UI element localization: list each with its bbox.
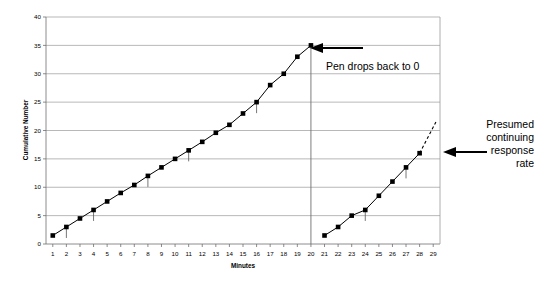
data-point-m8-v12 bbox=[146, 174, 151, 179]
x-tick-label-14: 14 bbox=[226, 250, 233, 257]
data-point-m1-v1.5 bbox=[50, 233, 55, 238]
data-point-m9-v13.5 bbox=[159, 165, 164, 170]
x-axis-title: Minutes bbox=[231, 262, 256, 269]
x-tick-label-11: 11 bbox=[185, 250, 192, 257]
x-tick-label-16: 16 bbox=[253, 250, 260, 257]
x-tick-label-7: 7 bbox=[133, 250, 137, 257]
y-tick-label-25: 25 bbox=[34, 98, 41, 105]
data-point-m12-v18 bbox=[200, 140, 205, 145]
cumulative-record-chart: 0510152025303540 12345678910111213141516… bbox=[0, 0, 549, 287]
x-tick-label-29: 29 bbox=[430, 250, 437, 257]
x-tick-label-17: 17 bbox=[267, 250, 274, 257]
x-tick-label-22: 22 bbox=[335, 250, 342, 257]
data-point-m22-v3 bbox=[336, 225, 341, 230]
data-point-m7-v10.4 bbox=[132, 183, 137, 188]
x-tick-label-18: 18 bbox=[280, 250, 287, 257]
y-tick-label-40: 40 bbox=[34, 13, 41, 20]
y-tick-label-20: 20 bbox=[34, 127, 41, 134]
x-tick-label-25: 25 bbox=[375, 250, 382, 257]
data-point-m17-v28 bbox=[268, 83, 273, 88]
x-tick-label-12: 12 bbox=[199, 250, 206, 257]
pen-drop-label: Pen drops back to 0 bbox=[326, 60, 420, 72]
x-tick-label-8: 8 bbox=[146, 250, 150, 257]
data-point-m24-v6 bbox=[363, 208, 368, 213]
x-tick-label-20: 20 bbox=[307, 250, 314, 257]
x-tick-label-3: 3 bbox=[78, 250, 82, 257]
x-tick-label-9: 9 bbox=[160, 250, 164, 257]
x-tick-label-23: 23 bbox=[348, 250, 355, 257]
data-point-m15-v23 bbox=[241, 111, 246, 116]
presumed-rate-label-line-4: rate bbox=[516, 157, 534, 169]
x-tick-label-19: 19 bbox=[294, 250, 301, 257]
x-tick-label-5: 5 bbox=[105, 250, 109, 257]
data-point-m16-v25 bbox=[254, 100, 259, 105]
data-point-m18-v30 bbox=[281, 71, 286, 76]
presumed-rate-label-line-1: Presumed bbox=[486, 118, 534, 130]
x-tick-label-1: 1 bbox=[51, 250, 55, 257]
y-axis-title: Cumulative Number bbox=[22, 99, 29, 160]
x-tick-label-4: 4 bbox=[92, 250, 96, 257]
x-tick-label-2: 2 bbox=[65, 250, 69, 257]
x-tick-label-26: 26 bbox=[389, 250, 396, 257]
data-point-m6-v9 bbox=[118, 191, 123, 196]
data-point-m13-v19.6 bbox=[214, 130, 219, 135]
data-point-m20-v35 bbox=[309, 43, 314, 48]
y-tick-label-5: 5 bbox=[38, 212, 42, 219]
x-tick-label-6: 6 bbox=[119, 250, 123, 257]
x-tick-label-27: 27 bbox=[403, 250, 410, 257]
x-tick-label-13: 13 bbox=[212, 250, 219, 257]
x-tick-label-28: 28 bbox=[416, 250, 423, 257]
y-tick-label-35: 35 bbox=[34, 42, 41, 49]
y-tick-label-15: 15 bbox=[34, 155, 41, 162]
data-point-m14-v21 bbox=[227, 123, 232, 128]
presumed-rate-label-line-2: continuing bbox=[486, 131, 534, 143]
x-tick-label-15: 15 bbox=[240, 250, 247, 257]
data-point-m2-v3 bbox=[64, 225, 69, 230]
x-tick-label-24: 24 bbox=[362, 250, 369, 257]
chart-canvas: 0510152025303540 12345678910111213141516… bbox=[0, 0, 549, 287]
data-point-m3-v4.5 bbox=[78, 216, 83, 221]
y-tick-label-0: 0 bbox=[38, 240, 42, 247]
data-point-m11-v16.5 bbox=[186, 148, 191, 153]
data-point-m23-v5 bbox=[349, 213, 354, 218]
data-point-m5-v7.5 bbox=[105, 199, 110, 204]
data-point-m26-v11 bbox=[390, 179, 395, 184]
y-tick-label-30: 30 bbox=[34, 70, 41, 77]
presumed-rate-label-line-3: response bbox=[491, 144, 534, 156]
data-point-m4-v6 bbox=[91, 208, 96, 213]
y-tick-label-10: 10 bbox=[34, 183, 41, 190]
x-tick-label-21: 21 bbox=[321, 250, 328, 257]
data-point-m19-v33 bbox=[295, 54, 300, 59]
x-tick-label-10: 10 bbox=[172, 250, 179, 257]
data-point-m27-v13.5 bbox=[404, 165, 409, 170]
data-point-m21-v1.5 bbox=[322, 233, 327, 238]
data-point-m25-v8.5 bbox=[377, 193, 382, 198]
data-point-m10-v15 bbox=[173, 157, 178, 162]
